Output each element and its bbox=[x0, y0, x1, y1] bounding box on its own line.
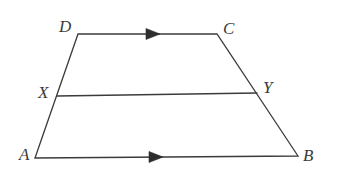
vertex-label-d: D bbox=[59, 18, 71, 35]
segment-xy-line bbox=[57, 93, 257, 96]
geometry-diagram-canvas bbox=[0, 0, 337, 178]
vertex-label-c: C bbox=[223, 20, 234, 37]
vertex-label-y: Y bbox=[263, 79, 272, 96]
vertex-label-b: B bbox=[303, 147, 313, 164]
vertex-label-a: A bbox=[19, 146, 29, 163]
arrow-marker-ab-icon bbox=[149, 152, 163, 163]
vertex-label-x: X bbox=[38, 84, 48, 101]
arrow-marker-dc-icon bbox=[146, 29, 160, 40]
geometry-figure: D C X Y A B bbox=[0, 0, 337, 178]
